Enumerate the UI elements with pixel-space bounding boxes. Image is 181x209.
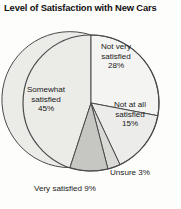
pie-chart-figure: Level of Satisfaction with New Cars Not … <box>0 0 181 209</box>
pie-label-not-very-satisfied: Not very satisfied 28% <box>88 42 144 71</box>
pie-label-not-very-satisfied-line2: satisfied <box>101 52 131 61</box>
pie-label-not-very-satisfied-line1: Not very <box>101 42 131 51</box>
pie-label-unsure-text: Unsure 3% <box>110 168 150 177</box>
pie-label-not-at-all-satisfied-line2: satisfied <box>115 110 145 119</box>
pie-label-very-satisfied: Very satisfied 9% <box>26 184 104 194</box>
pie-value-not-at-all-satisfied: 15% <box>100 119 160 129</box>
pie-value-very-satisfied: 9% <box>84 184 96 193</box>
pie-label-unsure: Unsure 3% <box>110 168 172 178</box>
pie-label-very-satisfied-text: Very satisfied <box>34 184 82 193</box>
pie-label-not-at-all-satisfied-line1: Not at all <box>114 100 146 109</box>
pie-label-somewhat-satisfied-line1: Somewhat <box>27 85 65 94</box>
pie-value-not-very-satisfied: 28% <box>88 61 144 71</box>
pie-label-somewhat-satisfied-line2: satisfied <box>31 95 61 104</box>
pie-label-not-at-all-satisfied: Not at all satisfied 15% <box>100 100 160 129</box>
pie-value-somewhat-satisfied: 45% <box>14 104 78 114</box>
pie-label-somewhat-satisfied: Somewhat satisfied 45% <box>14 85 78 114</box>
